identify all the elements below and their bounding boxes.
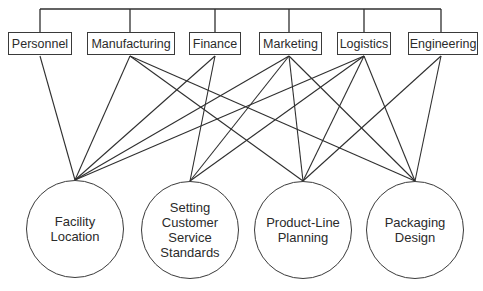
- caption-cutoff: [60, 286, 430, 291]
- connector-manufacturing-to-facility-location: [75, 56, 130, 180]
- decision-circle-product-line-planning: Product-LinePlanning: [254, 181, 352, 279]
- function-label: Engineering: [410, 37, 477, 51]
- function-label: Marketing: [263, 37, 318, 51]
- decision-circle-customer-service-standards: SettingCustomerServiceStandards: [141, 181, 239, 279]
- function-label: Personnel: [12, 37, 68, 51]
- function-box-marketing: Marketing: [259, 32, 322, 55]
- connector-logistics-to-facility-location: [75, 56, 364, 180]
- interfunctional-diagram: PersonnelManufacturingFinanceMarketingLo…: [0, 0, 483, 291]
- function-box-manufacturing: Manufacturing: [87, 32, 175, 55]
- connector-marketing-to-facility-location: [75, 56, 289, 180]
- function-label: Finance: [193, 37, 237, 51]
- connector-marketing-to-product-line-planning: [289, 56, 303, 181]
- decision-label: SettingCustomerServiceStandards: [160, 200, 219, 260]
- decision-circle-packaging-design: PackagingDesign: [366, 181, 464, 279]
- function-box-engineering: Engineering: [408, 32, 478, 55]
- connector-logistics-to-product-line-planning: [303, 56, 364, 181]
- function-label: Logistics: [340, 37, 389, 51]
- decision-label: FacilityLocation: [50, 214, 99, 244]
- function-box-finance: Finance: [189, 32, 241, 55]
- connector-personnel-to-facility-location: [40, 56, 75, 180]
- decision-circle-facility-location: FacilityLocation: [26, 180, 124, 278]
- function-box-logistics: Logistics: [337, 32, 391, 55]
- connector-engineering-to-packaging-design: [415, 56, 441, 181]
- connector-marketing-to-customer-service-standards: [190, 56, 289, 181]
- decision-label: Product-LinePlanning: [266, 215, 340, 245]
- connector-marketing-to-packaging-design: [289, 56, 415, 181]
- function-box-personnel: Personnel: [8, 32, 72, 55]
- decision-label: PackagingDesign: [385, 215, 446, 245]
- function-label: Manufacturing: [91, 37, 170, 51]
